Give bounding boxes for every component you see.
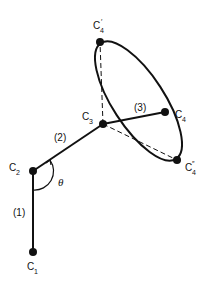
svg-text:4: 4 (192, 169, 196, 176)
svg-text:4: 4 (182, 116, 186, 123)
atom-c4-prime (96, 38, 104, 46)
bond-3 (103, 112, 165, 124)
label-c2: C 2 (9, 162, 20, 176)
label-c3: C 3 (82, 111, 93, 125)
atom-c3 (99, 120, 107, 128)
atom-c2 (29, 167, 37, 175)
dashed-bond-c3-c4doubleprime (103, 124, 177, 160)
label-c4-doubleprime: C 4 ″ (185, 160, 196, 176)
label-c1: C 1 (27, 261, 38, 275)
label-c4-prime: C 4 ′ (93, 18, 104, 34)
bond-label-2: (2) (54, 132, 66, 143)
svg-text:″: ″ (192, 160, 195, 167)
bond-label-1: (1) (13, 207, 25, 218)
svg-text:1: 1 (34, 268, 38, 275)
bond-label-3: (3) (134, 102, 146, 113)
angle-theta-label: θ (58, 176, 64, 188)
atom-c4-doubleprime (173, 156, 181, 164)
rotation-circle (79, 29, 198, 173)
atom-c1 (29, 248, 37, 256)
atom-c4 (161, 108, 169, 116)
svg-text:3: 3 (89, 118, 93, 125)
svg-text:4: 4 (100, 27, 104, 34)
svg-text:2: 2 (16, 169, 20, 176)
svg-text:′: ′ (101, 18, 103, 25)
conformation-diagram: θ C 1 C 2 C 3 C 4 C 4 ′ C 4 ″ (1) (2) (3… (0, 0, 206, 283)
bond-2 (33, 124, 103, 171)
